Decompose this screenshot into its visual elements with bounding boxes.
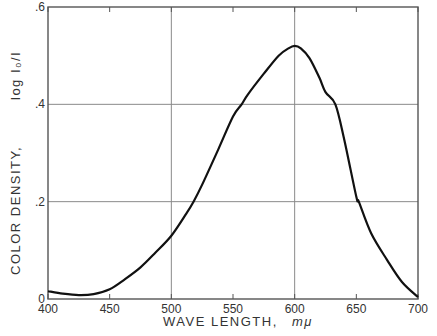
grid <box>48 7 418 299</box>
x-tick-label: 450 <box>100 302 120 316</box>
y-tick-label: 0 <box>38 292 45 306</box>
y-tick-label: .6 <box>35 0 45 14</box>
y-axis-unit: log I₀/I <box>8 51 23 100</box>
x-tick-label: 700 <box>408 302 428 316</box>
ticks: 4004505005506006507000.2.4.6 <box>35 0 428 316</box>
y-axis-label: COLOR DENSITY, <box>8 146 23 275</box>
plot-frame <box>48 7 418 299</box>
series-line-color-density <box>48 46 418 297</box>
y-tick-label: .2 <box>35 195 45 209</box>
x-axis-label: WAVE LENGTH, <box>163 314 278 329</box>
axes <box>48 7 418 299</box>
chart: 4004505005506006507000.2.4.6 WAVE LENGTH… <box>0 0 437 336</box>
x-axis-unit: mμ <box>292 314 313 329</box>
x-tick-label: 650 <box>346 302 366 316</box>
y-tick-label: .4 <box>35 97 45 111</box>
series-group <box>48 46 418 297</box>
